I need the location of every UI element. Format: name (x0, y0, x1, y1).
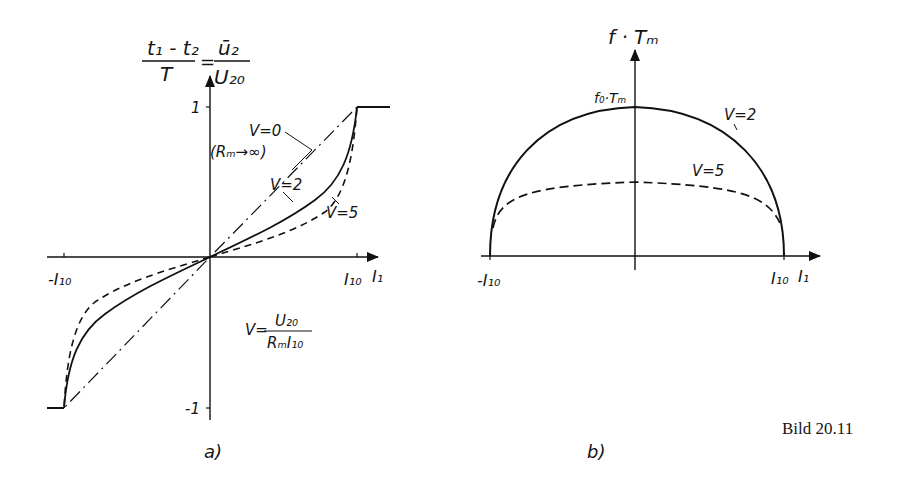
panel-a-ylabel-eq: = (200, 51, 215, 72)
panel-b-ylabel: f · Tₘ (608, 25, 659, 49)
panel-a-ylabel-num: t₁ - t₂ (147, 36, 199, 60)
panel-a-ylabel-num2: ū₂ (218, 36, 239, 60)
formula-lhs: V= (245, 321, 268, 339)
formula-num: U₂₀ (275, 312, 298, 330)
label-v0: V=0 (249, 122, 281, 140)
panel-a: t₁ - t₂ T = ū₂ U₂₀ 1 -1 -I₁₀ I₁₀ I₁ V=0 … (47, 36, 390, 462)
panel-b-tick-label-i10: I₁₀ (771, 269, 789, 288)
leader-b-v2 (734, 124, 737, 130)
label-v0-note: (Rₘ→∞) (210, 143, 267, 161)
label-v2: V=2 (270, 176, 302, 194)
leader-v0 (285, 132, 312, 170)
panel-a-label: a) (204, 441, 222, 462)
figure-canvas: t₁ - t₂ T = ū₂ U₂₀ 1 -1 -I₁₀ I₁₀ I₁ V=0 … (0, 0, 917, 492)
figure-caption: Bild 20.11 (782, 419, 853, 438)
panel-b-label-v5: V=5 (692, 162, 724, 180)
panel-b-label-v2: V=2 (724, 106, 756, 124)
label-v5: V=5 (326, 204, 358, 222)
panel-a-ylabel-den2: U₂₀ (214, 65, 245, 89)
panel-a-ylabel-den: T (160, 62, 174, 86)
panel-b-label: b) (587, 441, 605, 462)
curve-b-v5 (493, 182, 782, 228)
formula-den: RₘI₁₀ (267, 334, 303, 352)
panel-a-tick-label-i10: I₁₀ (344, 270, 362, 289)
panel-b-tick-label-neg-i10: -I₁₀ (477, 271, 501, 290)
panel-b: f · Tₘ f₀·Tₘ V=2 V=5 -I₁₀ I₁₀ I₁ b) (477, 25, 820, 462)
panel-a-tick-label-minus1: -1 (185, 400, 200, 418)
panel-a-tick-label-1: 1 (191, 99, 201, 117)
panel-b-peak-label: f₀·Tₘ (594, 90, 627, 106)
panel-a-xlabel: I₁ (372, 267, 383, 286)
panel-b-xlabel: I₁ (798, 267, 809, 286)
panel-a-tick-label-neg-i10: -I₁₀ (48, 270, 72, 289)
